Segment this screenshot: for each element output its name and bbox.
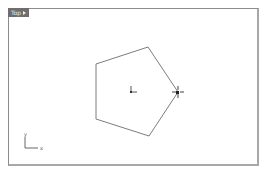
center-point-icon <box>130 86 137 93</box>
crosshair-cursor-icon <box>172 86 184 98</box>
world-axes-icon: y x <box>24 131 43 151</box>
viewport-canvas[interactable]: y x <box>0 0 264 174</box>
x-axis-label: x <box>40 145 43 151</box>
y-axis-label: y <box>24 131 27 138</box>
